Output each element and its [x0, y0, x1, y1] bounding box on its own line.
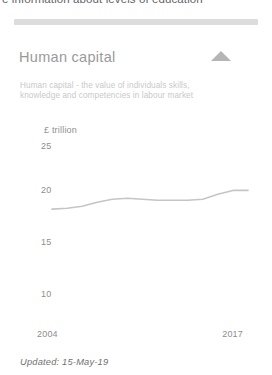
- x-axis: 2004 2017: [0, 329, 272, 345]
- x-tick-end: 2017: [222, 329, 243, 339]
- card-header: Human capital: [19, 49, 253, 75]
- human-capital-card[interactable]: Human capital Human capital - the value …: [0, 32, 272, 375]
- triangle-up-icon: [211, 51, 231, 61]
- divider-bar: [14, 19, 258, 25]
- clipped-headline-strip: e information about levels of education: [0, 0, 272, 11]
- sparkline-chart: £ trillion 25 20 15 10: [0, 125, 272, 325]
- updated-label: Updated: 15-May-19: [20, 357, 108, 367]
- clipped-headline-text: e information about levels of education: [2, 0, 203, 5]
- sparkline-path: [0, 125, 272, 325]
- card-description: Human capital - the value of individuals…: [20, 81, 218, 100]
- page-root: e information about levels of education …: [0, 0, 272, 375]
- page-title: Human capital: [19, 49, 116, 65]
- x-tick-start: 2004: [37, 329, 58, 339]
